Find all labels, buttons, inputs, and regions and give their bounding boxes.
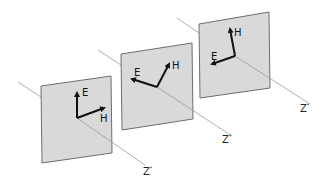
axis-behind-1: [18, 82, 41, 97]
wavefront-plane-3: E H Z*: [177, 12, 310, 114]
h-label-1: H: [100, 113, 108, 124]
z-label-2: Z*: [222, 133, 232, 145]
axis-behind-2: [98, 50, 121, 65]
z-label-1: Z*: [143, 165, 153, 177]
e-label-2: E: [134, 67, 140, 78]
em-wave-diagram: E H Z* E H Z* E H Z*: [0, 0, 330, 184]
e-label-3: E: [211, 51, 217, 62]
z-label-3: Z*: [300, 102, 310, 114]
h-label-2: H: [172, 60, 180, 71]
e-label-1: E: [82, 87, 88, 98]
axis-behind-3: [177, 18, 199, 33]
h-label-3: H: [234, 27, 242, 38]
